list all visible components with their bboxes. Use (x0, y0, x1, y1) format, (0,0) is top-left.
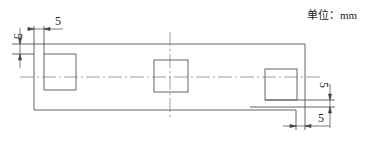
dim-text-bottom-horizontal: 5 (318, 111, 324, 125)
dim-text-bottom-vertical: 5 (317, 82, 331, 88)
outline-rectangles (12, 26, 335, 130)
rectangle-lower (34, 110, 296, 130)
dim-text-top-horizontal: 5 (55, 14, 61, 28)
dim-text-top-vertical: 5 (11, 33, 25, 39)
square-right (265, 69, 297, 100)
centerlines (20, 32, 320, 118)
dimension-bottom-right (283, 84, 332, 128)
technical-drawing: 5 5 5 5 (0, 0, 367, 143)
square-center (154, 60, 188, 92)
square-left (44, 54, 76, 90)
